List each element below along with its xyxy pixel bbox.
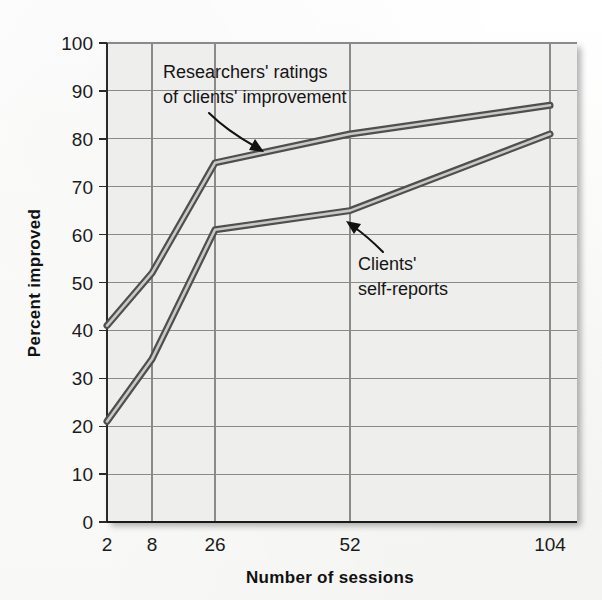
y-axis-tick-labels: 100 90 80 70 60 50 40 30 20 10 0: [61, 33, 93, 533]
ytick-0: 0: [82, 512, 93, 533]
ytick-70: 70: [72, 177, 93, 198]
xtick-26: 26: [204, 534, 225, 555]
ytick-80: 80: [72, 129, 93, 150]
xtick-104: 104: [534, 534, 566, 555]
chart-page: 100 90 80 70 60 50 40 30 20 10 0 2 8 26 …: [0, 0, 602, 600]
xtick-2: 2: [102, 534, 113, 555]
ytick-40: 40: [72, 320, 93, 341]
clients-annotation-line1: Clients': [358, 254, 416, 274]
x-axis-tick-labels: 2 8 26 52 104: [102, 534, 567, 555]
ytick-30: 30: [72, 368, 93, 389]
x-axis-title: Number of sessions: [246, 568, 414, 587]
ytick-60: 60: [72, 225, 93, 246]
ytick-100: 100: [61, 33, 93, 54]
chart-canvas: 100 90 80 70 60 50 40 30 20 10 0 2 8 26 …: [0, 0, 602, 600]
y-axis-title: Percent improved: [25, 209, 44, 357]
researchers-annotation-line2: of clients' improvement: [163, 87, 347, 107]
ytick-90: 90: [72, 81, 93, 102]
line-chart-figure: 100 90 80 70 60 50 40 30 20 10 0 2 8 26 …: [0, 0, 602, 600]
ytick-10: 10: [72, 464, 93, 485]
xtick-52: 52: [339, 534, 360, 555]
researchers-annotation-line1: Researchers' ratings: [163, 62, 328, 82]
ytick-50: 50: [72, 273, 93, 294]
clients-annotation-line2: self-reports: [358, 279, 448, 299]
y-axis-ticks: [99, 43, 107, 522]
xtick-8: 8: [147, 534, 158, 555]
ytick-20: 20: [72, 416, 93, 437]
